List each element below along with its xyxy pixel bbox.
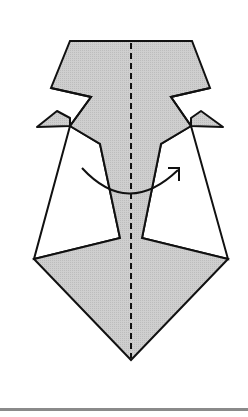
origami-diagram bbox=[0, 0, 248, 417]
right-ear bbox=[191, 111, 223, 127]
left-ear bbox=[37, 111, 70, 127]
footer-rule bbox=[0, 408, 248, 411]
